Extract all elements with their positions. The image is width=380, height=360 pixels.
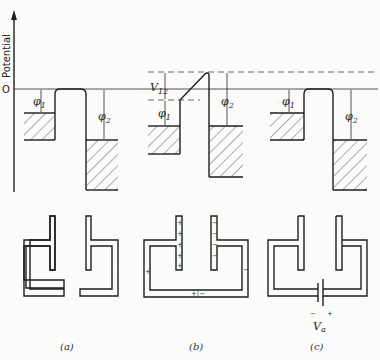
- svg-text:−: −: [243, 266, 249, 274]
- axis-label: Potential: [1, 34, 12, 78]
- axis-arrow-icon: [11, 10, 17, 20]
- phi2-label-c: φ2: [345, 110, 358, 125]
- panel-a-circuit: (a): [24, 216, 118, 352]
- battery-label: Va: [313, 320, 326, 334]
- svg-text:−: −: [212, 241, 218, 249]
- panel-c-circuit: − + Va (c): [268, 216, 367, 352]
- svg-text:−: −: [212, 219, 218, 227]
- svg-text:+: +: [177, 252, 183, 260]
- svg-text:+: +: [177, 241, 183, 249]
- phi2-label-a: φ2: [98, 110, 111, 125]
- phi2-label-b: φ2: [221, 95, 234, 110]
- caption-b: (b): [189, 341, 203, 352]
- svg-text:−: −: [212, 252, 218, 260]
- svg-text:−: −: [212, 230, 218, 238]
- phi1-label-a: φ1: [33, 95, 46, 110]
- panel-a-energy: φ1 φ2: [24, 89, 118, 190]
- svg-text:+: +: [177, 262, 183, 270]
- svg-text:+: +: [177, 230, 183, 238]
- junction-label: +|−: [191, 290, 205, 298]
- panel-b-circuit: + + + + + + − − − − − +|− (b): [144, 216, 249, 352]
- svg-text:+: +: [177, 219, 183, 227]
- phi1-label-c: φ1: [282, 95, 295, 110]
- caption-a: (a): [60, 341, 74, 352]
- svg-text:+: +: [145, 268, 151, 276]
- battery-plus: +: [327, 310, 333, 318]
- zero-label: O: [2, 84, 10, 95]
- caption-c: (c): [310, 341, 324, 352]
- battery-minus: −: [310, 310, 316, 318]
- contact-potential-diagram: Potential O φ1 φ2 V12 φ1 φ2: [0, 0, 380, 360]
- v12-label: V12: [150, 81, 168, 96]
- phi1-label-b: φ1: [158, 107, 171, 122]
- potential-axis: Potential O: [1, 10, 17, 192]
- panel-c-energy: φ1 φ2: [270, 89, 367, 190]
